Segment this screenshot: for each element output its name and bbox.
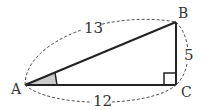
triangle-svg: 13 5 12 A B C: [0, 0, 206, 110]
vertex-label-a: A: [10, 81, 22, 97]
side-label-bc: 5: [184, 46, 194, 64]
vertex-label-b: B: [178, 5, 188, 21]
side-label-ac: 12: [93, 92, 112, 110]
triangle-diagram: 13 5 12 A B C: [0, 0, 206, 110]
side-label-ab: 13: [84, 19, 103, 37]
vertex-label-c: C: [181, 84, 192, 100]
right-angle-marker: [164, 73, 176, 85]
